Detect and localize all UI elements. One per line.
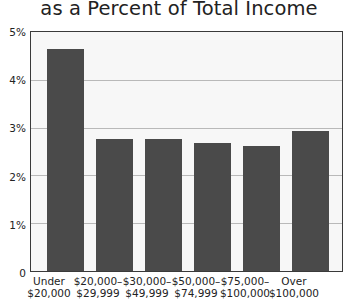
y-axis-tick-label-2: 2%: [0, 172, 26, 182]
bar-20000-29999: [96, 139, 133, 271]
y-axis-tick-label-1: 1%: [0, 220, 26, 230]
y-axis-tick-label-4: 4%: [0, 75, 26, 85]
bar-chart-figure: as a Percent of Total Income 5% 4% 3% 2%…: [0, 0, 358, 300]
x-axis-label-line-2: $100,000: [264, 288, 324, 300]
chart-title: as a Percent of Total Income: [0, 0, 358, 20]
bar-50000-74999: [194, 143, 231, 271]
plot-area: [30, 31, 343, 272]
x-axis-tick-label-over-100000: Over $100,000: [264, 276, 324, 299]
x-axis-label-line-1: Over: [264, 276, 324, 288]
bar-75000-100000: [243, 146, 280, 271]
y-axis-tick-label-3: 3%: [0, 123, 26, 133]
bar-30000-49999: [145, 139, 182, 271]
y-axis-tick-label-5: 5%: [0, 27, 26, 37]
bar-over-100000: [292, 131, 329, 271]
bar-under-20000: [47, 49, 84, 271]
